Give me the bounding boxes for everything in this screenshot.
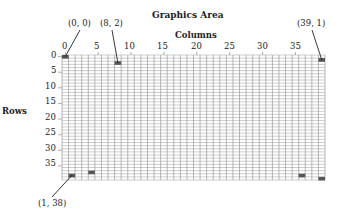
annotation-8-2: (8, 2) bbox=[100, 18, 123, 28]
annotation-1-38: (1, 38) bbox=[38, 198, 66, 208]
graphics-grid bbox=[0, 0, 341, 217]
filled-cell bbox=[318, 177, 325, 181]
annotation-0-0: (0, 0) bbox=[68, 18, 91, 28]
filled-cell bbox=[88, 171, 95, 175]
filled-cell bbox=[299, 174, 306, 178]
filled-cell bbox=[62, 55, 69, 59]
annotation-39-1: (39, 1) bbox=[297, 18, 325, 28]
annotation-leader-line bbox=[65, 30, 80, 57]
